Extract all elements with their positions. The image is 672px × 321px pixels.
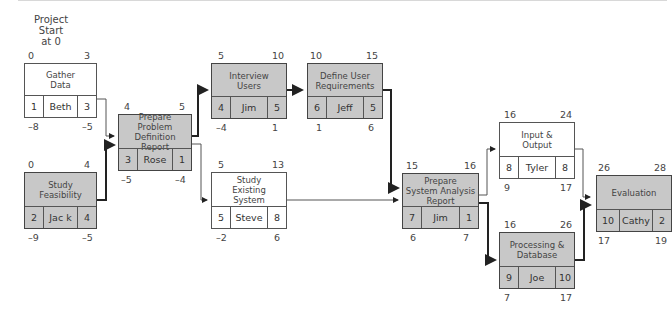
early-start: 16 [504,219,516,230]
node-name: Prepare System Analysis Report [403,174,478,207]
node-id: 9 [500,267,519,288]
late-start: 9 [504,182,510,193]
late-finish: –5 [82,232,93,243]
node-id: 7 [403,207,422,228]
node-name: Interview Users [212,64,286,97]
node-duration: 8 [268,207,286,228]
node-duration: 5 [268,97,286,118]
node-resource: Cathy [620,210,653,231]
early-finish: 4 [84,159,90,170]
node-resource: Jeff [327,97,364,118]
late-finish: 7 [463,232,469,243]
early-finish: 10 [272,50,284,61]
early-start: 10 [310,50,322,61]
node-duration: 10 [556,267,574,288]
node-id: 5 [212,207,231,228]
late-start: –5 [121,174,132,185]
node-id: 3 [119,149,138,170]
node-problem-definition-report[interactable]: Prepare Problem Definition Report 3Rose1 [118,114,192,171]
node-name: Evaluation [597,176,671,210]
node-id: 1 [25,96,44,117]
node-resource: Jac k [44,207,78,228]
node-study-existing-system[interactable]: Study Existing System 5Steve8 [211,172,287,229]
node-name: Study Existing System [212,173,286,207]
node-duration: 3 [78,96,96,117]
late-finish: 6 [274,232,280,243]
node-name: Define User Requirements [308,64,382,97]
late-start: –9 [28,232,39,243]
late-start: 17 [598,235,610,246]
late-finish: –5 [82,121,93,132]
early-finish: 24 [560,109,572,120]
node-define-user-requirements[interactable]: Define User Requirements 6Jeff5 [307,63,383,119]
early-finish: 16 [464,160,476,171]
early-finish: 26 [560,219,572,230]
node-evaluation[interactable]: Evaluation 10Cathy2 [596,175,672,232]
node-id: 10 [597,210,620,231]
node-id: 6 [308,97,327,118]
node-resource: Jim [231,97,268,118]
node-duration: 5 [364,97,382,118]
late-finish: 19 [655,235,667,246]
late-start: 1 [316,122,322,133]
early-finish: 3 [84,50,90,61]
late-finish: 17 [560,182,572,193]
early-finish: 5 [179,101,185,112]
late-finish: –4 [175,174,186,185]
node-duration: 8 [556,157,574,178]
node-resource: Rose [138,149,173,170]
node-system-analysis-report[interactable]: Prepare System Analysis Report 7Jim1 [402,173,479,229]
node-interview-users[interactable]: Interview Users 4Jim5 [211,63,287,119]
node-resource: Beth [44,96,78,117]
node-resource: Tyler [519,157,556,178]
node-resource: Steve [231,207,268,228]
node-duration: 1 [460,207,478,228]
early-finish: 13 [272,159,284,170]
late-start: 6 [410,232,416,243]
node-name: Study Feasibility [25,173,96,207]
late-finish: 6 [368,122,374,133]
node-input-output[interactable]: Input & Output 8Tyler8 [499,122,575,179]
node-id: 2 [25,207,44,228]
node-study-feasibility[interactable]: Study Feasibility 2Jac k4 [24,172,97,229]
early-start: 5 [218,159,224,170]
late-start: –8 [28,121,39,132]
node-id: 8 [500,157,519,178]
early-finish: 15 [366,50,378,61]
node-name: Processing & Database [500,233,574,267]
late-start: –2 [216,232,227,243]
node-name: Prepare Problem Definition Report [119,115,191,149]
node-name: Gather Data [25,64,96,96]
node-duration: 2 [653,210,671,231]
late-finish: 1 [272,122,278,133]
early-start: 4 [124,101,130,112]
early-start: 0 [28,159,34,170]
early-start: 16 [504,109,516,120]
late-start: 7 [504,292,510,303]
late-start: –4 [216,122,227,133]
node-name: Input & Output [500,123,574,157]
late-finish: 17 [560,292,572,303]
node-gather-data[interactable]: Gather Data 1Beth3 [24,63,97,118]
node-duration: 4 [78,207,96,228]
early-start: 15 [406,160,418,171]
early-finish: 28 [654,162,666,173]
node-processing-database[interactable]: Processing & Database 9Joe10 [499,232,575,289]
early-start: 0 [28,50,34,61]
early-start: 5 [218,50,224,61]
node-id: 4 [212,97,231,118]
node-resource: Jim [422,207,460,228]
node-duration: 1 [173,149,191,170]
node-resource: Joe [519,267,556,288]
early-start: 26 [598,162,610,173]
